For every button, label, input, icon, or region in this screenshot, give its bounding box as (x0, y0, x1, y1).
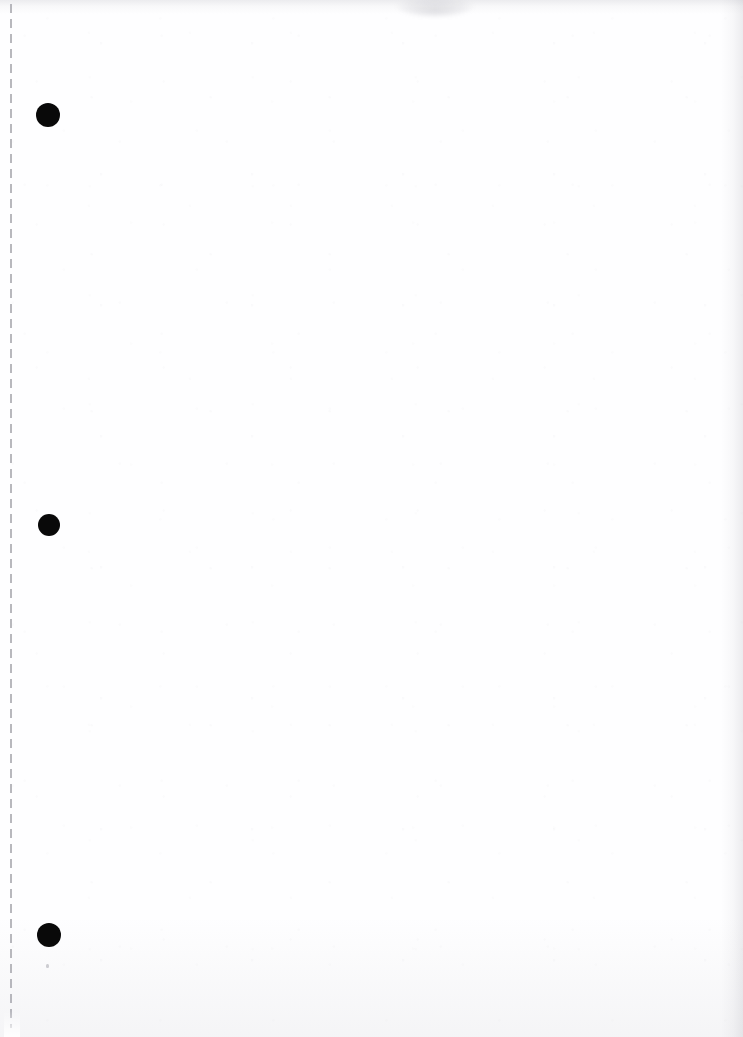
scanned-page (0, 0, 743, 1037)
marker-dot-top (36, 103, 60, 127)
marker-dot-middle (38, 514, 60, 536)
perforation-dashed-line (10, 4, 12, 1028)
faint-speck-artifact (46, 964, 49, 968)
marker-dot-bottom (37, 923, 61, 947)
paper-background (0, 0, 743, 1037)
